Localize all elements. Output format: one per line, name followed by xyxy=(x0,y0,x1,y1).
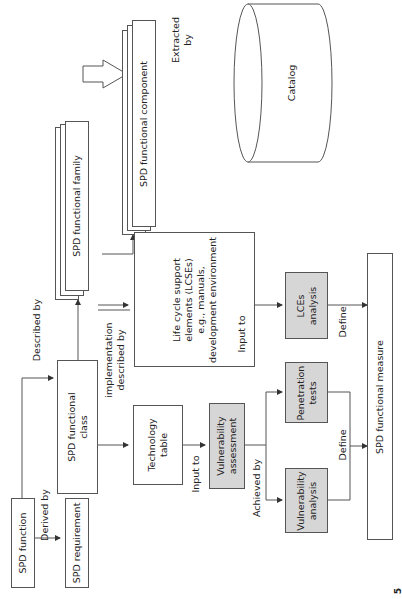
edge-label-define-left: Define xyxy=(337,429,349,460)
edge-label-derived-by: Derived by xyxy=(39,489,51,541)
node-spd-functional-measure: SPD functional measure xyxy=(367,253,393,540)
node-penetration-tests: Penetration tests xyxy=(285,362,328,423)
node-label: Technology table xyxy=(146,418,170,471)
edge-label-extracted-by: Extracted by xyxy=(170,17,194,63)
node-vulnerability-assessment: Vulnerability assessment xyxy=(209,403,245,489)
node-label: Vulnerability assessment xyxy=(215,416,239,475)
node-label: SPD functional family xyxy=(71,155,83,257)
node-label: SPD requirement xyxy=(71,503,83,584)
node-spd-functional-class: SPD functional class xyxy=(57,360,98,494)
node-spd-functional-component: SPD functional component xyxy=(132,20,156,227)
node-spd-function: SPD function xyxy=(11,498,35,588)
node-label: Penetration tests xyxy=(295,365,319,420)
catalog-cylinder-icon xyxy=(234,4,332,162)
node-label: SPD function xyxy=(17,513,29,574)
node-lces-analysis: LCEs analysis xyxy=(285,272,328,339)
extracted-by-arrow-icon xyxy=(83,60,127,88)
node-label: Vulnerability analysis xyxy=(295,471,319,530)
node-spd-requirement: SPD requirement xyxy=(65,498,89,588)
edge-label-input-to-tech: Input to xyxy=(190,455,202,492)
edge-label-achieved-by: Achieved by xyxy=(251,459,263,517)
node-catalog: Catalog xyxy=(286,65,298,101)
node-label: LCEs analysis xyxy=(295,286,319,324)
node-technology-table: Technology table xyxy=(133,405,183,485)
node-label: SPD functional measure xyxy=(374,340,386,454)
node-label: SPD functional class xyxy=(66,392,90,461)
edge-label-input-to-lcse: Input to xyxy=(236,315,248,352)
node-spd-functional-family: SPD functional family xyxy=(65,121,89,291)
node-label: Life cycle support elements (LCSEs) e.g.… xyxy=(171,236,219,362)
node-label: SPD functional component xyxy=(138,60,150,186)
edge-label-described-by: Described by xyxy=(31,299,43,361)
node-vulnerability-analysis: Vulnerability analysis xyxy=(285,468,328,533)
edge-label-implementation-described-by: implementation described by xyxy=(103,322,127,397)
figure-number-fragment: 5 xyxy=(392,588,402,594)
edge-label-define-right: Define xyxy=(337,306,349,337)
